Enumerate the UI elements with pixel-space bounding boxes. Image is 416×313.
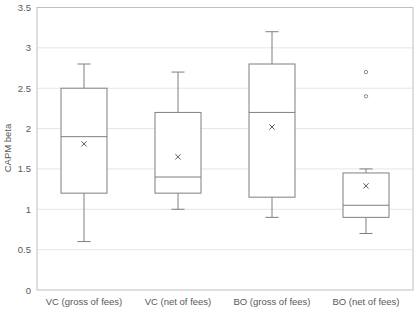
box-series — [61, 32, 389, 242]
x-category-label: BO (net of fees) — [332, 296, 399, 307]
y-tick-label: 3.5 — [18, 2, 31, 13]
x-category-label: VC (net of fees) — [145, 296, 212, 307]
y-tick-label: 2 — [26, 123, 31, 134]
box-2 — [155, 72, 201, 209]
y-tick-label: 0 — [26, 285, 31, 296]
outlier-point — [364, 95, 367, 98]
y-tick-label: 0.5 — [18, 244, 31, 255]
y-tick-label: 2.5 — [18, 83, 31, 94]
box-1 — [61, 64, 107, 242]
iqr-box — [61, 88, 107, 193]
x-category-label: VC (gross of fees) — [46, 296, 123, 307]
x-category-label: BO (gross of fees) — [233, 296, 310, 307]
x-axis-categories: VC (gross of fees)VC (net of fees)BO (gr… — [46, 296, 400, 307]
y-axis-label: CAPM beta — [2, 123, 13, 172]
outlier-point — [364, 70, 367, 73]
iqr-box — [155, 112, 201, 193]
y-tick-label: 1 — [26, 204, 31, 215]
box-4 — [343, 70, 389, 233]
box-3 — [249, 32, 295, 218]
box-plot-chart: 00.511.522.533.5 VC (gross of fees)VC (n… — [0, 0, 416, 313]
y-tick-label: 1.5 — [18, 163, 31, 174]
y-tick-label: 3 — [26, 42, 31, 53]
y-axis-ticks: 00.511.522.533.5 — [18, 2, 31, 296]
iqr-box — [343, 173, 389, 217]
iqr-box — [249, 64, 295, 197]
